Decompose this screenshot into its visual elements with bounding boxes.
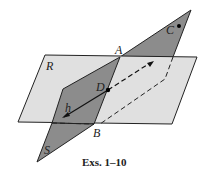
point-d — [106, 88, 110, 92]
planes-diagram: R S A B C D h Exs. 1–10 — [0, 0, 204, 174]
label-h: h — [65, 101, 71, 115]
label-a: A — [114, 43, 123, 57]
label-r: R — [45, 59, 54, 73]
point-c — [177, 24, 181, 28]
label-s: S — [44, 143, 50, 157]
caption: Exs. 1–10 — [82, 156, 127, 168]
label-b: B — [93, 126, 101, 140]
label-c: C — [166, 23, 175, 37]
plane-s-upper — [120, 10, 191, 57]
label-d: D — [95, 80, 105, 94]
